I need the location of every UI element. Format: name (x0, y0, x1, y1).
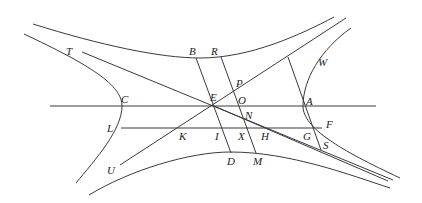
label-point-G: G (303, 130, 311, 142)
label-point-I: I (214, 130, 220, 142)
label-point-C: C (121, 93, 129, 105)
label-point-B: B (189, 45, 196, 57)
label-point-E: E (209, 91, 217, 103)
label-point-S: S (323, 139, 329, 151)
label-point-H: H (260, 130, 270, 142)
diagram-canvas: TBRWPEOCANFLKIXHGSUDM (0, 0, 422, 203)
asymptote-U-W (120, 18, 346, 165)
label-point-X: X (237, 130, 246, 142)
construction-lines (50, 18, 393, 181)
label-point-N: N (244, 109, 253, 121)
label-point-A: A (305, 95, 313, 107)
label-point-F: F (325, 118, 333, 130)
label-point-L: L (106, 122, 113, 134)
label-point-K: K (178, 130, 187, 142)
label-point-T: T (66, 45, 73, 57)
line-E-S (214, 106, 388, 181)
label-point-P: P (235, 77, 243, 89)
label-point-O: O (238, 94, 246, 106)
point-labels: TBRWPEOCANFLKIXHGSUDM (66, 45, 333, 176)
hyperbola-diagram: TBRWPEOCANFLKIXHGSUDM (0, 0, 422, 203)
lower-conjugate-branch (89, 152, 390, 195)
label-point-R: R (210, 45, 218, 57)
label-point-M: M (252, 155, 263, 167)
right-hyperbola-branch (303, 28, 400, 178)
left-hyperbola-branch (24, 34, 122, 183)
label-point-D: D (226, 155, 235, 167)
label-point-W: W (318, 56, 328, 68)
label-point-U: U (107, 164, 116, 176)
upper-conjugate-branch (33, 17, 334, 58)
